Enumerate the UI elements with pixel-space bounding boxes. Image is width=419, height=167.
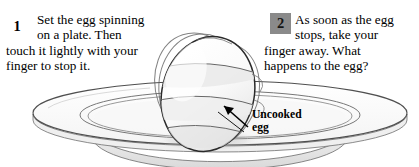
uncooked-egg-label: Uncooked egg bbox=[252, 108, 302, 135]
step-2-text: As soon as the egg stops, take your fing… bbox=[264, 12, 394, 74]
callout-line-2: egg bbox=[252, 121, 302, 134]
step-1-line-4: finger to stop it. bbox=[6, 58, 144, 73]
step-1-line-2: on a plate. Then bbox=[6, 27, 144, 42]
spinning-egg-figure: 1 Set the egg spinning on a plate. Then … bbox=[0, 0, 419, 167]
step-2-line-1: As soon as the egg bbox=[264, 12, 394, 27]
step-1-line-3: touch it lightly with your bbox=[6, 43, 144, 58]
step-2-line-4: happens to the egg? bbox=[264, 58, 394, 73]
step-2-line-3: finger away. What bbox=[264, 43, 394, 58]
step-1-text: Set the egg spinning on a plate. Then to… bbox=[6, 12, 144, 74]
step-1-line-1: Set the egg spinning bbox=[6, 12, 144, 27]
step-2-line-2: stops, take your bbox=[264, 27, 394, 42]
callout-line-1: Uncooked bbox=[252, 108, 302, 121]
